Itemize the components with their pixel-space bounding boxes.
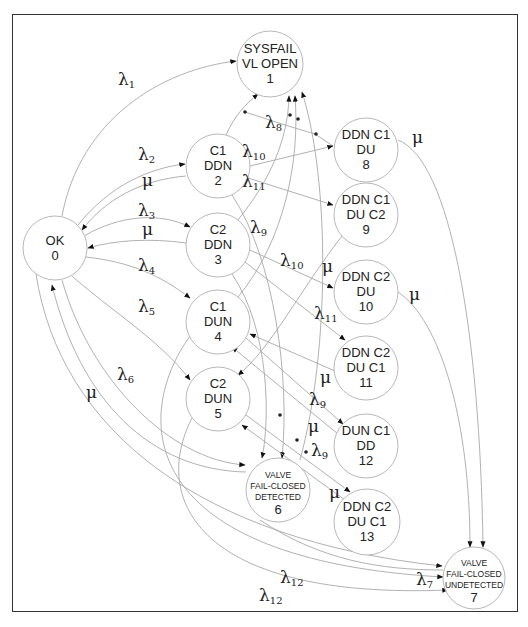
repair-rate-label: μ bbox=[142, 219, 153, 239]
state-label-line: UNDETECTED bbox=[445, 580, 503, 590]
state-label-line: VALVE bbox=[265, 470, 291, 480]
failure-rate-label: λ3 bbox=[138, 200, 155, 221]
state-label-line: 2 bbox=[214, 173, 221, 188]
state-label-line: 11 bbox=[359, 375, 373, 390]
failure-rate-label: λ6 bbox=[117, 364, 134, 385]
failure-rate-label: λ5 bbox=[138, 296, 155, 317]
failure-rate-label: λ9 bbox=[250, 217, 267, 238]
state-label-line: 9 bbox=[362, 222, 369, 237]
state-label-line: DD bbox=[357, 438, 376, 453]
failure-rate-label: λ9 bbox=[311, 440, 328, 461]
state-label-line: 5 bbox=[214, 406, 221, 421]
markov-diagram: SYSFAILVL OPEN1C1DDN2OK0C2DDN3C1DUN4C2DU… bbox=[0, 0, 528, 627]
state-label-line: C1 bbox=[210, 299, 227, 314]
state-label-line: SYSFAIL bbox=[244, 41, 297, 56]
state-label-line: FAIL-CLOSED bbox=[446, 569, 501, 579]
state-label-line: 4 bbox=[214, 329, 221, 344]
state-node-1: SYSFAILVL OPEN1 bbox=[237, 31, 303, 97]
failure-rate-label: λ4 bbox=[138, 255, 155, 276]
failure-rate-label: λ11 bbox=[314, 303, 338, 324]
state-node-10: DDN C2DU10 bbox=[334, 260, 398, 324]
state-label-line: DU C1 bbox=[346, 360, 385, 375]
repair-rate-label: μ bbox=[308, 416, 319, 436]
state-label-line: FAIL-CLOSED bbox=[250, 481, 305, 491]
failure-rate-label: λ8 bbox=[265, 112, 282, 133]
state-label-line: C1 bbox=[210, 143, 227, 158]
state-node-12: DUN C1DD12 bbox=[334, 414, 398, 478]
state-label-line: C2 bbox=[210, 376, 227, 391]
edge-10-to-7 bbox=[398, 292, 470, 547]
failure-rate-label: λ11 bbox=[242, 171, 266, 192]
state-label-line: 3 bbox=[214, 252, 221, 267]
state-node-5: C2DUN5 bbox=[186, 367, 250, 431]
state-label-line: 12 bbox=[359, 453, 373, 468]
state-label-line: VALVE bbox=[461, 558, 487, 568]
state-label-line: 8 bbox=[362, 157, 369, 172]
state-label-line: 10 bbox=[359, 299, 373, 314]
state-label-line: DUN bbox=[204, 314, 232, 329]
repair-rate-label: μ bbox=[409, 284, 420, 304]
failure-rate-label: λ1 bbox=[118, 69, 135, 90]
state-node-7: VALVEFAIL-CLOSEDUNDETECTED7 bbox=[443, 547, 505, 609]
repair-rate-label: μ bbox=[412, 127, 423, 147]
repair-rate-label: μ bbox=[320, 367, 331, 387]
state-label-line: 1 bbox=[266, 71, 273, 86]
state-node-3: C2DDN3 bbox=[186, 213, 250, 277]
state-label-line: C2 bbox=[210, 222, 227, 237]
state-label-line: DDN C1 bbox=[342, 127, 390, 142]
state-label-line: 0 bbox=[51, 248, 58, 263]
state-label-line: DDN C2 bbox=[342, 269, 390, 284]
state-label-line: 6 bbox=[274, 502, 281, 517]
state-label-line: DDN C2 bbox=[343, 499, 391, 514]
edge-8-to-7 bbox=[398, 140, 483, 547]
repair-rate-label: μ bbox=[142, 170, 153, 190]
state-label-line: DDN bbox=[204, 158, 232, 173]
edge-2-to-0 bbox=[82, 176, 186, 230]
state-label-line: 13 bbox=[360, 529, 374, 544]
state-node-4: C1DUN4 bbox=[186, 290, 250, 354]
state-label-line: DDN bbox=[204, 237, 232, 252]
state-node-6: VALVEFAIL-CLOSEDDETECTED6 bbox=[246, 458, 310, 522]
state-label-line: 7 bbox=[470, 590, 477, 605]
state-label-line: DUN bbox=[204, 391, 232, 406]
repair-rate-label: μ bbox=[86, 382, 97, 402]
state-label-line: DU bbox=[357, 142, 376, 157]
state-label-line: DETECTED bbox=[255, 492, 301, 502]
state-node-11: DDN C2DU C111 bbox=[334, 336, 398, 400]
state-label-line: VL OPEN bbox=[242, 56, 298, 71]
repair-rate-label: μ bbox=[322, 256, 333, 276]
failure-rate-label: λ7 bbox=[416, 569, 433, 590]
state-label-line: DU C2 bbox=[346, 207, 385, 222]
state-label-line: OK bbox=[46, 233, 65, 248]
state-label-line: DU bbox=[357, 284, 376, 299]
state-node-0: OK0 bbox=[23, 216, 87, 280]
repair-rate-label: μ bbox=[329, 482, 340, 502]
state-label-line: DU C1 bbox=[347, 514, 386, 529]
state-label-line: DUN C1 bbox=[342, 423, 390, 438]
edge-3-to-0 bbox=[88, 240, 186, 248]
state-node-8: DDN C1DU8 bbox=[334, 118, 398, 182]
edge-8-to-1-lambda8 bbox=[245, 112, 333, 146]
failure-rate-label: λ2 bbox=[138, 144, 155, 165]
state-label-line: DDN C2 bbox=[342, 345, 390, 360]
state-node-2: C1DDN2 bbox=[186, 134, 250, 198]
edge-0-to-3 bbox=[84, 218, 190, 236]
state-label-line: DDN C1 bbox=[342, 192, 390, 207]
failure-rate-label: λ12 bbox=[280, 567, 304, 588]
edge-0-to-5 bbox=[72, 276, 190, 380]
failure-rate-label: λ10 bbox=[280, 250, 304, 271]
failure-rate-label: λ10 bbox=[242, 141, 266, 162]
state-node-13: DDN C2DU C113 bbox=[334, 489, 400, 555]
failure-rate-label: λ12 bbox=[259, 585, 283, 606]
failure-rate-label: λ9 bbox=[309, 389, 326, 410]
state-node-9: DDN C1DU C29 bbox=[334, 183, 398, 247]
